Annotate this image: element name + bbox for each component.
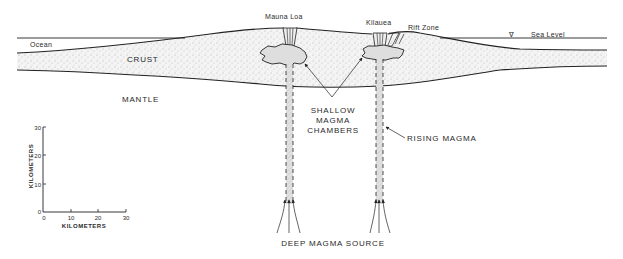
crust-layer [17,28,607,87]
kilauea-conduit [376,59,383,204]
mauna-loa-label: Mauna Loa [265,13,303,20]
rising-magma-label: RISING MAGMA [407,134,477,143]
y-tick-30: 30 [34,125,41,131]
x-tick-30: 30 [123,215,130,221]
deep-magma-source-label: DEEP MAGMA SOURCE [281,239,385,248]
rift-zone-label: Rift Zone [408,24,439,31]
shallow-chambers-label-line1: SHALLOW [311,106,356,115]
y-tick-0: 0 [38,209,42,215]
crust-label: CRUST [127,55,159,64]
deep-source-arrows-kilauea [370,200,390,233]
sea-level-symbol: ∇ [508,31,514,38]
volcano-cross-section: ∇ Ocean CRUST MANTLE Mauna Loa Kilauea R… [0,0,623,259]
mantle-label: MANTLE [122,95,159,104]
x-axis-label: KILOMETERS [62,223,106,229]
x-tick-10: 10 [68,215,75,221]
rising-magma-leader [386,127,405,138]
shallow-chambers-label-line3: CHAMBERS [307,126,359,135]
sea-level-label: Sea Level [531,31,565,38]
kilauea-label: Kilauea [366,19,391,26]
mauna-loa-conduit [286,64,293,204]
x-tick-0: 0 [42,215,46,221]
scale-axes [43,127,126,212]
y-tick-10: 10 [34,182,41,188]
y-tick-20: 20 [34,153,41,159]
y-axis-label: KILOMETERS [28,144,34,188]
ocean-label: Ocean [30,41,52,48]
shallow-chambers-label-line2: MAGMA [316,116,350,125]
x-tick-20: 20 [95,215,102,221]
deep-source-arrows-mauna-loa [277,200,300,233]
